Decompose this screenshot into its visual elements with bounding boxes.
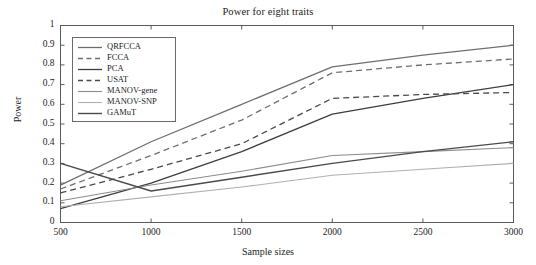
legend-item-manov-snp: MANOV-SNP — [77, 96, 171, 107]
legend-line-swatch — [77, 75, 103, 85]
x-tick-label: 3000 — [489, 227, 536, 237]
y-tick-label: 0.9 — [15, 39, 55, 49]
x-tick-label: 2000 — [307, 227, 357, 237]
legend-item-qrfcca: QRFCCA — [77, 41, 171, 52]
series-line-gamut — [61, 142, 514, 191]
legend-line-swatch — [77, 97, 103, 107]
legend-label: USAT — [103, 74, 128, 85]
legend-label: MANOV-gene — [103, 85, 157, 96]
y-tick-label: 0 — [15, 216, 55, 226]
y-tick-label: 0.6 — [15, 98, 55, 108]
y-tick-label: 0.7 — [15, 78, 55, 88]
legend-line-swatch — [77, 42, 103, 52]
legend-line-swatch — [77, 53, 103, 63]
y-tick-label: 1 — [15, 19, 55, 29]
legend-label: FCCA — [103, 52, 129, 63]
legend-item-usat: USAT — [77, 74, 171, 85]
legend-item-fcca: FCCA — [77, 52, 171, 63]
x-tick-label: 2500 — [398, 227, 448, 237]
legend-label: MANOV-SNP — [103, 96, 157, 107]
legend-line-swatch — [77, 64, 103, 74]
legend-item-gamut: GAMuT — [77, 107, 171, 118]
legend-item-manov-gene: MANOV-gene — [77, 85, 171, 96]
x-tick-label: 1000 — [126, 227, 176, 237]
legend-label: QRFCCA — [103, 41, 141, 52]
x-tick-label: 1500 — [217, 227, 267, 237]
legend-line-swatch — [77, 86, 103, 96]
legend-line-swatch — [77, 108, 103, 118]
y-tick-label: 0.4 — [15, 137, 55, 147]
series-line-manov-gene — [61, 148, 514, 201]
legend-item-pca: PCA — [77, 63, 171, 74]
legend-label: GAMuT — [103, 107, 136, 118]
y-tick-label: 0.2 — [15, 177, 55, 187]
figure-container: Power for eight traits Power Sample size… — [0, 0, 536, 265]
y-tick-label: 0.1 — [15, 196, 55, 206]
legend: QRFCCAFCCAPCAUSATMANOV-geneMANOV-SNPGAMu… — [72, 37, 176, 122]
x-tick-label: 500 — [36, 227, 86, 237]
y-tick-label: 0.8 — [15, 58, 55, 68]
y-tick-label: 0.3 — [15, 157, 55, 167]
legend-label: PCA — [103, 63, 124, 74]
y-tick-label: 0.5 — [15, 118, 55, 128]
